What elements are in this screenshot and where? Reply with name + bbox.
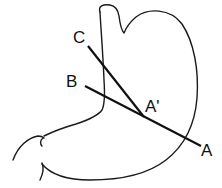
duodenum-arc (13, 136, 44, 160)
label-a: A (201, 142, 212, 159)
pylorus-notch (41, 138, 43, 146)
duodenum-lower (40, 163, 43, 180)
label-b: B (66, 73, 77, 90)
label-a-prime: A' (145, 98, 160, 115)
line-c (88, 46, 144, 117)
line-b-a (85, 86, 201, 146)
stomach-lesser-curvature (42, 5, 197, 180)
label-c: C (73, 29, 85, 46)
stomach-diagram: C B A' A (0, 0, 222, 188)
diagram-drawing (0, 0, 222, 188)
